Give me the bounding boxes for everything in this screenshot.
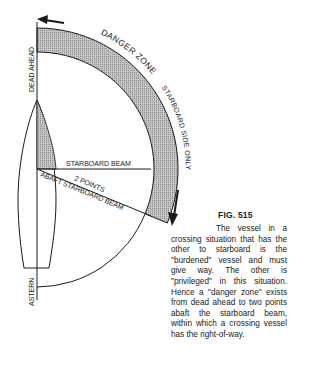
caption-text: The vessel in a crossing situation that … (171, 224, 287, 341)
starboard-beam-label: STARBOARD BEAM (66, 160, 131, 167)
arrow-left-icon (37, 15, 64, 24)
astern-arc (37, 214, 145, 287)
figure-title: FIG. 515 (218, 210, 253, 220)
dead-ahead-label: DEAD AHEAD (28, 47, 35, 92)
danger-zone-band (37, 28, 178, 223)
astern-label: ASTERN (28, 278, 35, 306)
figure-caption: The vessel in a crossing situation that … (171, 224, 287, 341)
bow-sector (37, 100, 56, 169)
